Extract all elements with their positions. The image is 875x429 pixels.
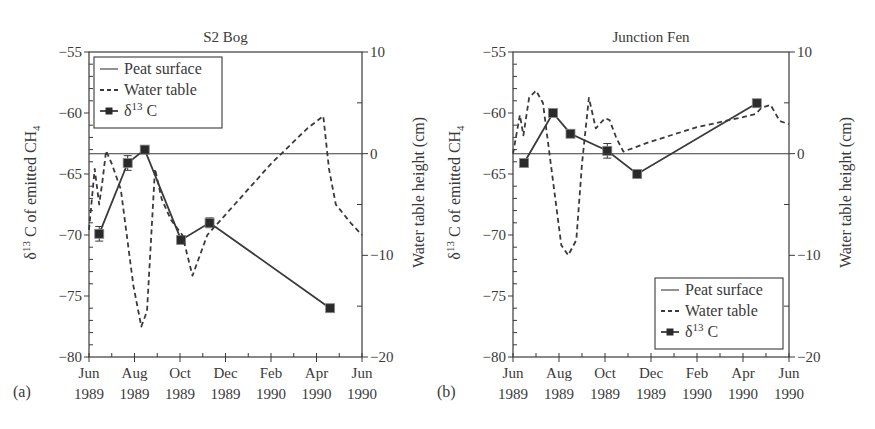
y-right-axis-label: Water table height (cm)	[837, 117, 855, 268]
x-tick-label-year: 1989	[211, 386, 241, 402]
delta13c-marker	[520, 159, 529, 168]
x-tick-label-month: Jun	[352, 365, 373, 381]
delta13c-line	[524, 103, 757, 174]
y-right-tick-label: 10	[370, 44, 385, 60]
y-left-tick-label: −80	[483, 349, 506, 365]
y-left-tick-label: −55	[59, 44, 82, 60]
legend-water-table-label: Water table	[685, 302, 758, 319]
legend-peat-surface-label: Peat surface	[124, 60, 202, 77]
x-tick-label-year: 1990	[302, 386, 332, 402]
y-left-tick-label: −65	[59, 166, 82, 182]
x-tick-label-year: 1990	[728, 386, 758, 402]
x-tick-label-year: 1990	[682, 386, 712, 402]
y-right-tick-label: −10	[370, 247, 393, 263]
y-left-tick-label: −75	[59, 288, 82, 304]
y-right-axis-label: Water table height (cm)	[410, 117, 428, 268]
y-left-tick-label: −80	[59, 349, 82, 365]
x-tick-label-year: 1990	[256, 386, 286, 402]
y-left-tick-label: −60	[483, 105, 506, 121]
delta13c-marker	[633, 170, 642, 179]
figure: S2 Bog−55−60−65−70−75−80100−10−20Jun1989…	[0, 0, 875, 429]
x-tick-label-month: Aug	[122, 365, 148, 381]
delta13c-line	[99, 150, 330, 309]
x-tick-label-year: 1989	[544, 386, 574, 402]
panel-label: (b)	[437, 383, 456, 401]
x-tick-label-year: 1989	[165, 386, 195, 402]
legend-water-table-label: Water table	[124, 81, 197, 98]
delta13c-marker	[566, 129, 575, 138]
legend-peat-surface-label: Peat surface	[685, 281, 763, 298]
x-tick-label-month: Apr	[731, 365, 754, 381]
delta13c-marker	[95, 229, 104, 238]
water-table-line	[89, 116, 362, 326]
x-tick-label-month: Jun	[79, 365, 100, 381]
x-tick-label-month: Oct	[594, 365, 616, 381]
y-left-tick-label: −70	[483, 227, 506, 243]
x-tick-label-month: Dec	[639, 365, 663, 381]
x-tick-label-month: Feb	[686, 365, 709, 381]
legend: Peat surfaceWater tableδ13 C	[655, 278, 783, 349]
panel-a-s2-bog: S2 Bog−55−60−65−70−75−80100−10−20Jun1989…	[13, 29, 428, 402]
x-tick-label-year: 1990	[774, 386, 804, 402]
delta13c-marker	[123, 159, 132, 168]
delta13c-marker	[205, 218, 214, 227]
delta13c-marker	[752, 99, 761, 108]
y-right-tick-label: 0	[797, 146, 805, 162]
y-right-tick-label: −10	[797, 247, 820, 263]
x-tick-label-year: 1989	[498, 386, 528, 402]
y-left-tick-label: −70	[59, 227, 82, 243]
x-tick-label-year: 1990	[347, 386, 377, 402]
chart-title: Junction Fen	[612, 29, 690, 45]
delta13c-marker	[549, 109, 558, 118]
y-left-axis-label: δ13 C of emitted CH4	[444, 125, 466, 260]
y-left-tick-label: −65	[483, 166, 506, 182]
x-tick-label-year: 1989	[120, 386, 150, 402]
delta13c-marker	[140, 145, 149, 154]
x-tick-label-month: Feb	[260, 365, 283, 381]
x-tick-label-year: 1989	[636, 386, 666, 402]
delta13c-marker	[326, 304, 335, 313]
x-tick-label-month: Aug	[546, 365, 572, 381]
x-tick-label-month: Dec	[213, 365, 237, 381]
y-right-tick-label: −20	[370, 349, 393, 365]
y-left-tick-label: −75	[483, 288, 506, 304]
x-tick-label-month: Jun	[779, 365, 800, 381]
y-left-tick-label: −60	[59, 105, 82, 121]
legend-delta13c-marker	[667, 329, 674, 336]
x-tick-label-month: Apr	[305, 365, 328, 381]
x-tick-label-year: 1989	[590, 386, 620, 402]
y-left-tick-label: −55	[483, 44, 506, 60]
x-tick-label-month: Jun	[503, 365, 524, 381]
x-tick-label-year: 1989	[74, 386, 104, 402]
legend: Peat surfaceWater tableδ13 C	[94, 57, 222, 128]
y-left-axis-label: δ13 C of emitted CH4	[20, 125, 42, 260]
x-tick-label-month: Oct	[169, 365, 191, 381]
y-right-tick-label: −20	[797, 349, 820, 365]
legend-delta13c-marker	[106, 108, 113, 115]
y-right-tick-label: 0	[370, 146, 378, 162]
panel-b-junction-fen: Junction Fen−55−60−65−70−75−80100−10−20J…	[437, 29, 855, 402]
chart-title: S2 Bog	[203, 29, 248, 45]
panel-label: (a)	[13, 383, 31, 401]
y-right-tick-label: 10	[797, 44, 812, 60]
